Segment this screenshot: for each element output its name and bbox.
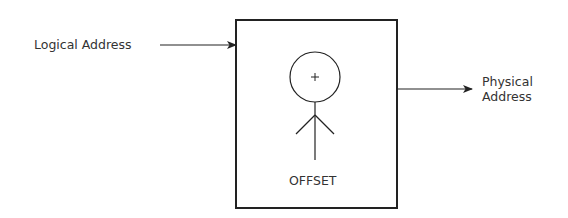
diagram-canvas bbox=[0, 0, 568, 218]
physical-address-label-line2: Address bbox=[482, 89, 532, 104]
logical-address-label: Logical Address bbox=[34, 37, 132, 52]
physical-address-label-line1: Physical bbox=[482, 74, 533, 89]
offset-input-icon bbox=[296, 102, 334, 160]
offset-label: OFFSET bbox=[289, 173, 336, 188]
